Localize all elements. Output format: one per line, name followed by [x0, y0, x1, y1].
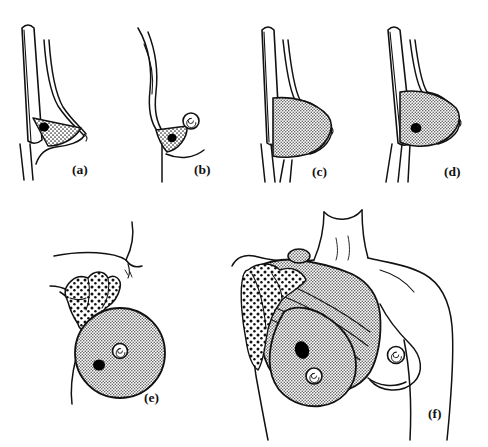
nipple-spiral — [113, 344, 128, 359]
panel-label-a: (a) — [72, 162, 88, 177]
nipple-spiral — [306, 368, 322, 384]
neck — [314, 210, 368, 260]
nipple-spiral — [388, 347, 405, 364]
tumor-dot — [167, 134, 176, 142]
tumor-dot — [93, 359, 105, 370]
panel-label-d: (d) — [444, 164, 461, 179]
torso-profile — [138, 28, 204, 182]
resected-breast-circle — [75, 308, 165, 398]
nipple-spiral — [183, 113, 199, 129]
panel-d-mastectomy-with-tumor: (d) — [368, 14, 488, 184]
shoulder-contour — [54, 222, 142, 278]
panel-e-axillary-dissection: (e) — [20, 208, 220, 423]
resection-wedge — [156, 126, 187, 152]
panel-b-quadrantectomy: (b) — [118, 14, 248, 184]
panel-label-b: (b) — [194, 162, 211, 177]
figure-root: (a) (b) — [0, 0, 488, 447]
panel-label-f: (f) — [428, 406, 442, 421]
breast-profile — [36, 40, 87, 164]
panel-label-e: (e) — [144, 390, 159, 405]
panel-f-radical-mastectomy: (f) — [228, 200, 488, 447]
panel-c-total-mastectomy: (c) — [240, 14, 370, 184]
tumor-dot — [411, 123, 422, 133]
supraclavicular-node — [288, 249, 310, 263]
tumor-dot — [39, 122, 49, 131]
panel-label-c: (c) — [312, 164, 327, 179]
